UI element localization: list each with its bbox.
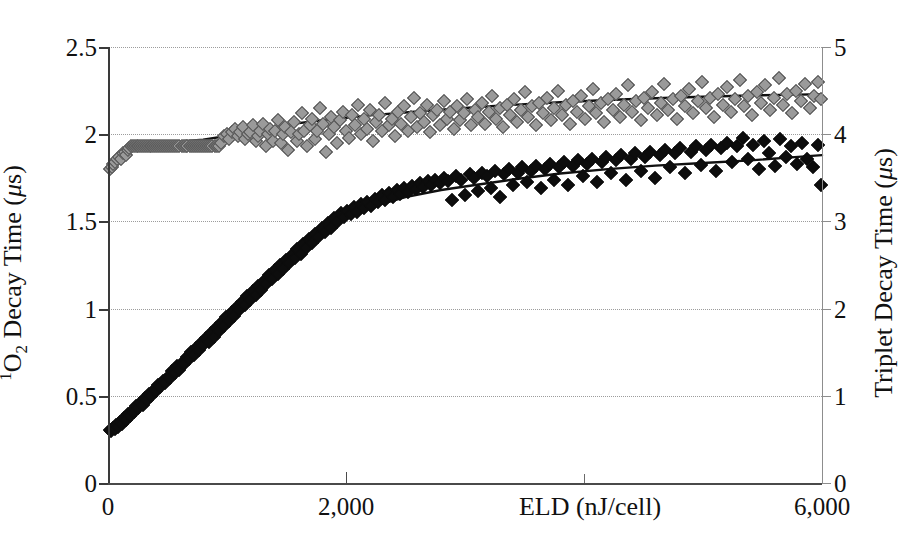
y-axis-right-tick-label: 0 bbox=[834, 471, 847, 496]
y-axis-left-tick bbox=[99, 483, 108, 485]
plot-area: 00.511.522.501234502,0006,000 bbox=[108, 47, 822, 483]
y-axis-left-tick bbox=[99, 134, 108, 136]
y-axis-left-tick bbox=[99, 221, 108, 223]
x-axis-tick-label: 6,000 bbox=[794, 494, 850, 519]
y-axis-left-tick bbox=[99, 47, 108, 49]
y-axis-left-tick-label: 1 bbox=[85, 296, 98, 321]
y-axis-right-tick-label: 1 bbox=[834, 383, 847, 408]
x-axis-title: ELD (nJ/cell) bbox=[519, 492, 661, 522]
y-axis-right-line bbox=[822, 47, 823, 483]
superscript-one: 1 bbox=[0, 372, 15, 381]
y-axis-right-tick bbox=[822, 483, 831, 484]
y-axis-right-tick-label: 3 bbox=[834, 209, 847, 234]
x-axis-line bbox=[108, 483, 822, 485]
y-axis-right-title: Triplet Decay Time (μs) bbox=[869, 148, 899, 398]
y-axis-right-tick-label: 5 bbox=[834, 35, 847, 60]
chart-figure: 1O2 Decay Time (μs) Triplet Decay Time (… bbox=[0, 0, 917, 546]
y-axis-left-tick bbox=[99, 309, 108, 311]
y-axis-right-tick bbox=[822, 47, 831, 48]
y-axis-right-tick bbox=[822, 396, 831, 397]
y-axis-right-tick bbox=[822, 134, 831, 135]
y-axis-left-tick bbox=[99, 396, 108, 398]
y-axis-left-tick-label: 2.5 bbox=[66, 35, 97, 60]
y-axis-right-tick bbox=[822, 221, 831, 222]
y-axis-right-tick-label: 2 bbox=[834, 296, 847, 321]
y-axis-left-tick-label: 0 bbox=[85, 471, 98, 496]
y-axis-left-tick-label: 0.5 bbox=[66, 383, 97, 408]
y-axis-right-tick-label: 4 bbox=[834, 122, 847, 147]
subscript-two: 2 bbox=[12, 345, 31, 354]
x-axis-tick-label: 2,000 bbox=[318, 494, 374, 519]
y-axis-left-line bbox=[108, 47, 110, 483]
y-axis-left-tick-label: 2 bbox=[85, 122, 98, 147]
x-axis-tick-label: 0 bbox=[102, 494, 115, 519]
y-axis-left-title: 1O2 Decay Time (μs) bbox=[0, 165, 32, 381]
y-axis-right-tick bbox=[822, 309, 831, 310]
y-axis-left-tick-label: 1.5 bbox=[66, 209, 97, 234]
